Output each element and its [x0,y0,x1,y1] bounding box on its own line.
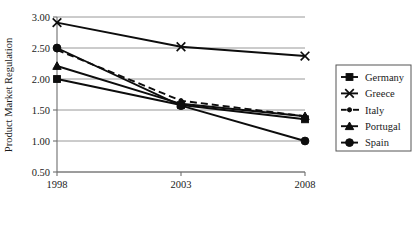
chart-legend[interactable]: GermanyGreeceItalyPortugalSpain [336,65,411,151]
legend-marker-spain [346,139,354,147]
series-lines [57,23,305,141]
legend-label-germany: Germany [365,72,405,83]
y-axis-title: Product Market Regulation [3,37,14,152]
legend-label-greece: Greece [365,88,395,99]
legend-marker-germany [346,74,353,81]
marker-portugal-1998 [53,62,61,70]
y-tick-label-0.50: 0.50 [32,167,50,178]
series-markers [53,18,310,145]
series-line-spain [57,48,305,141]
marker-spain-1998 [53,44,61,52]
product-market-regulation-chart: 3.002.502.001.501.000.50 199820032008 Pr… [0,0,417,225]
x-tick-label-1998: 1998 [47,179,68,190]
marker-germany-1998 [54,76,61,83]
chart-canvas: 3.002.502.001.501.000.50 199820032008 Pr… [0,0,417,225]
plot-axes [57,17,305,172]
y-tick-label-2.50: 2.50 [32,43,50,54]
marker-spain-2003 [177,102,185,110]
y-tick-label-1.50: 1.50 [32,105,50,116]
y-axis-tick-labels: 3.002.502.001.501.000.50 [32,12,50,178]
y-tick-label-2.00: 2.00 [32,74,50,85]
x-axis-tick-marks [57,172,305,176]
plot-gridlines [57,17,305,172]
legend-label-spain: Spain [365,137,390,148]
series-line-greece [57,23,305,56]
x-axis-tick-labels: 199820032008 [47,179,316,190]
marker-spain-2008 [301,137,309,145]
legend-label-italy: Italy [365,105,385,116]
y-tick-label-1.00: 1.00 [32,136,50,147]
y-axis-tick-marks [53,17,57,172]
legend-item-spain[interactable]: Spain [341,137,390,148]
x-tick-label-2008: 2008 [295,179,316,190]
y-axis-title-label: Product Market Regulation [3,37,14,152]
legend-marker-italy [347,108,351,112]
x-tick-label-2003: 2003 [171,179,192,190]
y-tick-label-3.00: 3.00 [32,12,50,23]
legend-label-portugal: Portugal [365,121,401,132]
